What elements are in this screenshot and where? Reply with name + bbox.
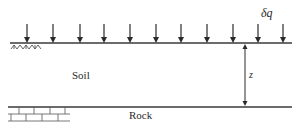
- soil-label: Soil: [72, 69, 90, 81]
- load-arrow-icon: [178, 24, 184, 43]
- load-arrow-icon: [230, 24, 236, 43]
- depth-dimension-arrow: [243, 44, 248, 106]
- load-arrow-icon: [101, 24, 107, 43]
- load-label: δq: [261, 6, 273, 20]
- rock-brick-icon: [8, 107, 70, 121]
- load-arrow-icon: [24, 24, 30, 43]
- rock-label: Rock: [129, 109, 153, 121]
- load-arrow-icon: [255, 24, 261, 43]
- load-arrows: [24, 24, 286, 43]
- depth-label: z: [248, 69, 253, 80]
- load-arrow-icon: [153, 24, 159, 43]
- ground-hatch-icon: [11, 45, 41, 49]
- soil-rock-diagram: δq Soil z Rock: [0, 0, 295, 130]
- load-arrow-icon: [127, 24, 133, 43]
- load-arrow-icon: [77, 24, 83, 43]
- load-arrow-icon: [204, 24, 210, 43]
- load-arrow-icon: [280, 24, 286, 43]
- load-arrow-icon: [50, 24, 56, 43]
